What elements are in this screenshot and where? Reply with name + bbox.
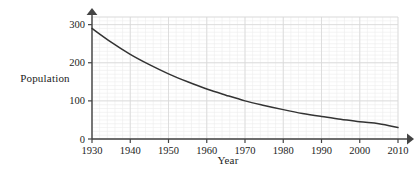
x-tick-label: 1990 (311, 145, 332, 156)
y-tick-label: 0 (80, 134, 85, 145)
y-tick-label: 200 (69, 57, 85, 68)
chart-canvas: 0100200300 19301940195019601970198019902… (0, 0, 420, 174)
x-tick-label: 2010 (388, 145, 409, 156)
x-tick-label: 1980 (273, 145, 294, 156)
x-tick-label: 2000 (349, 145, 370, 156)
y-tick-label: 100 (69, 95, 85, 106)
x-axis-title: Year (206, 154, 250, 166)
y-axis-title: Population (6, 72, 84, 84)
x-tick-label: 1940 (120, 145, 141, 156)
population-decay-chart: 0100200300 19301940195019601970198019902… (0, 0, 420, 174)
x-tick-label: 1950 (158, 145, 179, 156)
x-tick-label: 1930 (82, 145, 103, 156)
y-tick-label: 300 (69, 19, 85, 30)
